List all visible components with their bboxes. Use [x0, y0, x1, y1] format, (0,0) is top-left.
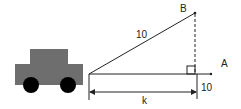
hypotenuse-line: [89, 13, 195, 74]
label-hypotenuse: 10: [136, 29, 148, 40]
car-icon: [15, 49, 83, 93]
label-k: k: [142, 95, 148, 106]
label-offset: 10: [201, 82, 213, 93]
point-b-dot: [194, 12, 197, 15]
label-b: B: [180, 3, 187, 14]
point-a-dot: [210, 73, 212, 75]
label-a: A: [221, 58, 228, 69]
diagram-canvas: B 10 A 10 k: [0, 0, 241, 109]
right-angle-marker: [187, 66, 195, 74]
